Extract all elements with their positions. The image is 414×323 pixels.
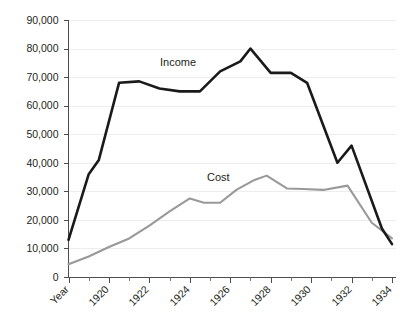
series-label-cost: Cost: [207, 171, 230, 183]
chart-background: [0, 0, 414, 323]
y-tick-label: 90,000: [26, 14, 58, 26]
chart-canvas: 010,00020,00030,00040,00050,00060,00070,…: [0, 0, 414, 323]
line-chart-figure: 010,00020,00030,00040,00050,00060,00070,…: [0, 0, 414, 323]
y-tick-label: 60,000: [26, 99, 58, 111]
y-tick-label: 20,000: [26, 214, 58, 226]
series-label-income: Income: [160, 56, 196, 68]
y-tick-label: 10,000: [26, 242, 58, 254]
y-tick-label: 80,000: [26, 42, 58, 54]
y-tick-label: 30,000: [26, 185, 58, 197]
y-tick-label: 0: [53, 271, 59, 283]
y-tick-label: 70,000: [26, 71, 58, 83]
y-tick-label: 50,000: [26, 128, 58, 140]
y-tick-label: 40,000: [26, 157, 58, 169]
